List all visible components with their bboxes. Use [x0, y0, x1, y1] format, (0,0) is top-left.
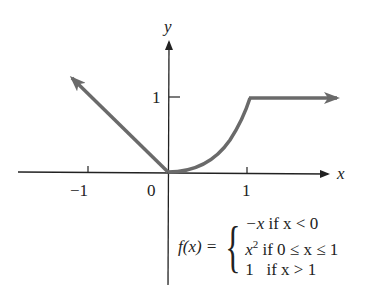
curve-x-squared — [168, 98, 250, 172]
case-cond: if 0 ≤ x ≤ 1 — [258, 240, 338, 259]
case-row: 1 if x > 1 — [245, 260, 338, 280]
case-row: −x if x < 0 — [245, 214, 338, 234]
case-row: x2 if 0 ≤ x ≤ 1 — [245, 234, 338, 260]
x-axis-label: x — [337, 165, 345, 182]
x-tick-label-neg1: −1 — [70, 182, 88, 199]
case-expr: 1 — [245, 260, 254, 279]
cases-list: −x if x < 0 x2 if 0 ≤ x ≤ 1 1 if x > 1 — [245, 214, 338, 280]
case-cond: if x > 1 — [254, 260, 316, 279]
y-axis — [168, 42, 169, 285]
case-expr: x — [245, 240, 253, 259]
case-expr: −x — [245, 214, 264, 233]
y-axis-label: y — [164, 18, 172, 35]
piecewise-formula: f(x) = { −x if x < 0 x2 if 0 ≤ x ≤ 1 1 i… — [178, 214, 338, 280]
brace: { — [226, 218, 241, 276]
case-cond: if x < 0 — [264, 214, 318, 233]
function-name: f(x) = — [178, 237, 217, 257]
x-tick-label-0: 0 — [147, 182, 156, 199]
x-tick-label-1: 1 — [242, 182, 251, 199]
y-tick-label-1: 1 — [152, 89, 161, 106]
